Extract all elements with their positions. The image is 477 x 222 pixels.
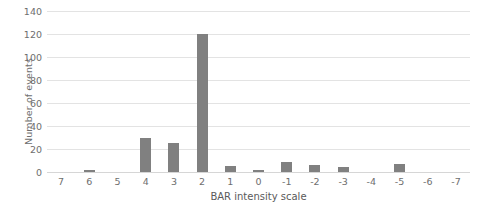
x-axis-tick-labels: 76543210-1-2-3-4-5-6-7 [47,176,470,187]
bar-slot [357,11,385,172]
gridline-0: 0 [47,172,470,173]
bar-slot [75,11,103,172]
x-tick-label: 5 [103,176,131,187]
y-tick-label: 80 [30,75,42,86]
bar [281,162,292,172]
y-tick-label: 140 [24,6,42,17]
x-tick-label: -2 [301,176,329,187]
x-tick-label: -3 [329,176,357,187]
y-tick-label: 0 [36,167,42,178]
x-tick-label: 2 [188,176,216,187]
bar [197,34,208,172]
bar [140,138,151,173]
bar-slot [216,11,244,172]
bar [309,165,320,172]
x-tick-label: 6 [75,176,103,187]
bar-slot [188,11,216,172]
bar [338,167,349,172]
bar-slot [160,11,188,172]
bar [225,166,236,172]
bar [168,143,179,172]
x-tick-label: 1 [216,176,244,187]
bar-slot [385,11,413,172]
bar [394,164,405,172]
bar-slot [132,11,160,172]
y-tick-label: 20 [30,144,42,155]
y-tick-label: 120 [24,29,42,40]
x-tick-label: -5 [385,176,413,187]
bar [253,170,264,172]
bar-series [47,11,470,172]
bar-slot [301,11,329,172]
x-tick-label: -6 [414,176,442,187]
bar-slot [244,11,272,172]
x-tick-label: 0 [244,176,272,187]
y-tick-label: 60 [30,98,42,109]
bar-slot [329,11,357,172]
y-tick-label: 100 [24,52,42,63]
bar-slot [47,11,75,172]
bar-slot [414,11,442,172]
bar-chart: Number of events 020406080100120140 7654… [0,0,477,222]
bar [84,170,95,172]
x-tick-label: -7 [442,176,470,187]
plot-area: 020406080100120140 [47,11,470,172]
x-tick-label: 3 [160,176,188,187]
x-tick-label: 7 [47,176,75,187]
bar-slot [442,11,470,172]
x-tick-label: 4 [132,176,160,187]
bar-slot [273,11,301,172]
x-axis-title: BAR intensity scale [47,191,470,202]
x-tick-label: -4 [357,176,385,187]
bar-slot [103,11,131,172]
x-tick-label: -1 [273,176,301,187]
y-tick-label: 40 [30,121,42,132]
